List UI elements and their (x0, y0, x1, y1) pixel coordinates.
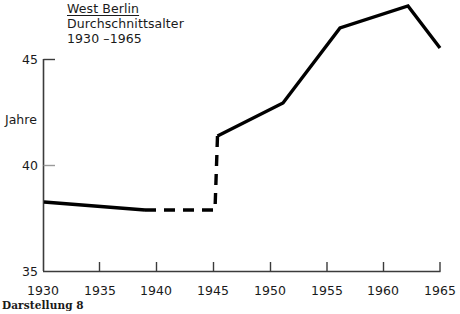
data-series-durchschnittsalter (44, 6, 440, 210)
series-segment-solid-postwar (218, 6, 441, 136)
y-axis (44, 59, 56, 271)
series-segment-dashed-war (145, 136, 218, 210)
series-segment-solid-prewar (44, 202, 145, 210)
figure-caption: Darstellung 8 (2, 299, 84, 311)
x-axis (43, 262, 441, 272)
